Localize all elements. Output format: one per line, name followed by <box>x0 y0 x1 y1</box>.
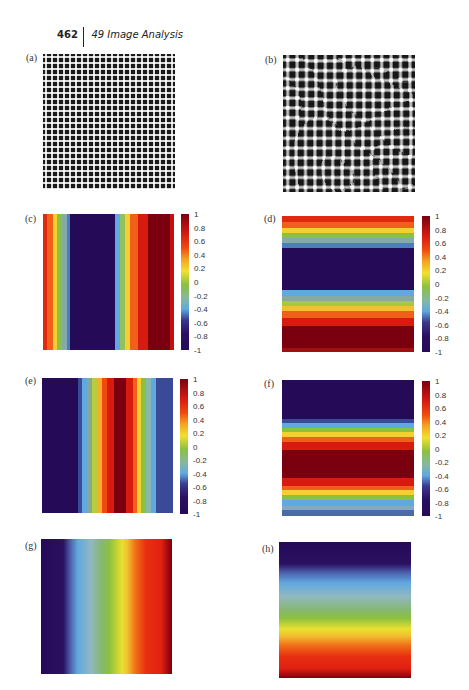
tick-label: 0.6 <box>193 403 204 411</box>
tick-label: 1 <box>435 213 439 221</box>
tick-label: 1 <box>435 378 439 386</box>
tick-label: 0.6 <box>435 240 446 248</box>
tick-label: -1 <box>193 511 200 519</box>
panel-label-e: (e) <box>25 375 36 386</box>
panel-f-heatmap <box>282 380 414 516</box>
tick-label: 0.8 <box>194 225 205 233</box>
tick-label: 0.4 <box>194 252 205 260</box>
tick-label: -1 <box>194 347 201 355</box>
panel-label-b: (b) <box>265 54 277 65</box>
tick-label: 1 <box>194 211 198 219</box>
colorbar-d-ticks: 1 0.8 0.6 0.4 0.2 0 -0.2 -0.4 -0.6 -0.8 … <box>435 216 465 352</box>
tick-label: -0.6 <box>193 484 207 492</box>
panel-h-heatmap <box>279 542 411 678</box>
colorbar-c <box>181 214 189 350</box>
tick-label: -0.4 <box>435 308 449 316</box>
tick-label: 0.4 <box>435 254 446 262</box>
tick-label: -0.8 <box>435 335 449 343</box>
panel-g-heatmap <box>41 539 172 674</box>
tick-label: -0.4 <box>194 306 208 314</box>
tick-label: 0.2 <box>435 432 446 440</box>
panel-b-distorted-checkerboard <box>283 55 415 192</box>
checkerboard-image <box>43 54 175 189</box>
tick-label: -0.2 <box>435 459 449 467</box>
tick-label: 0.8 <box>435 227 446 235</box>
colorbar-f-ticks: 1 0.8 0.6 0.4 0.2 0 -0.2 -0.4 -0.6 -0.8 … <box>435 381 465 516</box>
page-number: 462 <box>57 29 78 40</box>
tick-label: 0.8 <box>435 392 446 400</box>
tick-label: 0.4 <box>193 417 204 425</box>
panel-d-heatmap <box>282 216 414 352</box>
tick-label: -0.4 <box>435 473 449 481</box>
panel-label-d: (d) <box>264 213 276 224</box>
tick-label: 0 <box>193 444 197 452</box>
tick-label: 0.4 <box>435 419 446 427</box>
colorbar-c-ticks: 1 0.8 0.6 0.4 0.2 0 -0.2 -0.4 -0.6 -0.8 … <box>194 214 224 350</box>
panel-c-heatmap <box>43 214 174 350</box>
tick-label: 0.8 <box>193 390 204 398</box>
tick-label: 0 <box>435 446 439 454</box>
tick-label: 1 <box>193 376 197 384</box>
tick-label: -0.8 <box>193 498 207 506</box>
tick-label: -0.8 <box>435 500 449 508</box>
tick-label: 0 <box>194 279 198 287</box>
panel-a-checkerboard <box>43 54 175 189</box>
tick-label: -0.8 <box>194 333 208 341</box>
colorbar-e-ticks: 1 0.8 0.6 0.4 0.2 0 -0.2 -0.4 -0.6 -0.8 … <box>193 379 223 514</box>
tick-label: -0.6 <box>194 320 208 328</box>
tick-label: 0.2 <box>194 265 205 273</box>
tick-label: -0.2 <box>193 457 207 465</box>
panel-e-heatmap <box>42 378 173 513</box>
tick-label: 0.6 <box>194 238 205 246</box>
tick-label: 0.2 <box>435 267 446 275</box>
panel-label-g: (g) <box>25 540 37 551</box>
tick-label: -0.2 <box>435 295 449 303</box>
tick-label: -1 <box>435 513 442 521</box>
tick-label: 0.2 <box>193 430 204 438</box>
tick-label: -1 <box>435 349 442 357</box>
tick-label: -0.4 <box>193 471 207 479</box>
colorbar-f <box>422 381 430 516</box>
header-divider <box>83 27 85 47</box>
panel-label-c: (c) <box>25 213 36 224</box>
panel-label-a: (a) <box>26 52 37 63</box>
panel-label-f: (f) <box>264 378 274 389</box>
chapter-title: 49 Image Analysis <box>91 29 183 40</box>
colorbar-d <box>422 216 430 352</box>
running-header: 462 49 Image Analysis <box>57 25 183 43</box>
tick-label: 0.6 <box>435 405 446 413</box>
tick-label: -0.6 <box>435 486 449 494</box>
tick-label: -0.2 <box>194 293 208 301</box>
tick-label: -0.6 <box>435 322 449 330</box>
tick-label: 0 <box>435 281 439 289</box>
distorted-checkerboard-image <box>283 55 415 192</box>
colorbar-e <box>180 379 188 514</box>
panel-label-h: (h) <box>262 543 274 554</box>
